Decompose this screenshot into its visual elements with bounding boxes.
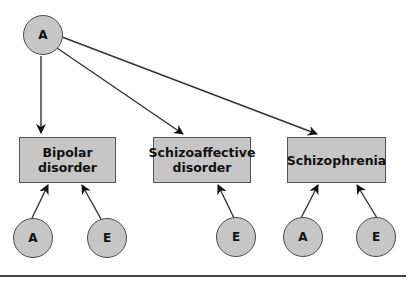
box-label: Schizophrenia: [287, 153, 387, 168]
edge-a-to-bipolar: [32, 185, 48, 218]
node-label: E: [372, 230, 380, 244]
box-schizoaffective-disorder: Schizoaffective disorder: [153, 137, 251, 183]
bottom-node-e-schizoaffective: E: [216, 217, 256, 257]
bottom-divider: [0, 275, 406, 277]
top-node-label: A: [38, 28, 47, 42]
edge-top-a-to-schizophrenia: [62, 37, 317, 134]
node-label: E: [232, 230, 240, 244]
box-label-line1: Schizoaffective: [149, 145, 256, 160]
bottom-node-a-schizophrenia: A: [283, 217, 323, 257]
bottom-node-e-bipolar: E: [87, 218, 127, 258]
box-label-line2: disorder: [172, 160, 231, 175]
box-label-line1: Bipolar: [42, 145, 92, 160]
node-label: A: [298, 230, 307, 244]
edge-e-to-bipolar: [82, 185, 101, 219]
edge-top-a-to-schizoaffective: [57, 48, 183, 134]
box-label-line2: disorder: [38, 160, 97, 175]
bottom-node-e-schizophrenia: E: [356, 217, 396, 257]
node-label: E: [103, 231, 111, 245]
edge-a-to-schizophrenia: [301, 185, 318, 218]
box-bipolar-disorder: Bipolar disorder: [19, 137, 116, 183]
node-label: A: [28, 231, 37, 245]
box-schizophrenia: Schizophrenia: [287, 137, 386, 183]
top-node-a: A: [23, 15, 63, 55]
edge-e-to-schizophrenia: [357, 185, 377, 218]
bottom-node-a-bipolar: A: [13, 218, 53, 258]
edge-e-to-schizoaffective: [218, 185, 234, 218]
